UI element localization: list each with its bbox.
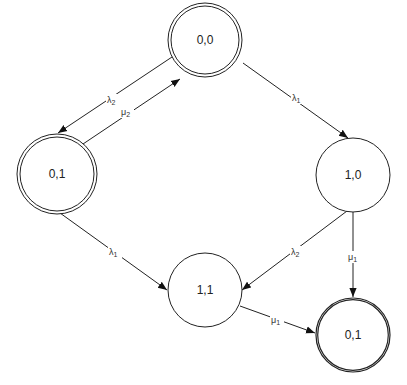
edge-label-lambda1-top: λ1 [291, 92, 305, 104]
svg-text:0,1: 0,1 [49, 167, 66, 181]
node-state-0-1-left: 0,1 [17, 134, 97, 214]
svg-text:0,0: 0,0 [197, 33, 214, 47]
svg-text:1,1: 1,1 [197, 283, 214, 297]
edge-label-lambda2-top: λ2 [106, 94, 120, 106]
node-state-0-1-right: 0,1 [316, 298, 390, 372]
edge-label-lambda2-bottom: λ2 [290, 246, 304, 258]
diagram-svg: λ2 μ2 λ1 λ1 λ2 μ1 [0, 0, 407, 385]
edge-label-mu1-vertical: μ1 [347, 251, 361, 263]
state-diagram: λ2 μ2 λ1 λ1 λ2 μ1 [0, 0, 407, 385]
edge-label-mu2: μ2 [120, 106, 134, 118]
node-state-1-0: 1,0 [316, 138, 390, 212]
node-state-0-0: 0,0 [168, 3, 242, 77]
svg-text:0,1: 0,1 [345, 328, 362, 342]
edge-label-lambda1-bottom: λ1 [108, 246, 122, 258]
node-state-1-1: 1,1 [168, 253, 242, 327]
edge-label-mu1-diagonal: μ1 [270, 314, 284, 326]
nodes: 0,0 0,1 1,0 1,1 0,1 [17, 3, 390, 372]
svg-text:1,0: 1,0 [345, 168, 362, 182]
